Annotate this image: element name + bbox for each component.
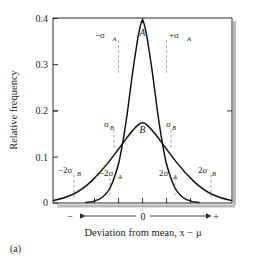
pos-2sigma-a-label: 2σ A: [159, 168, 177, 180]
svg-text:A: A: [186, 35, 191, 42]
pos-sigma-a-label: +σ A: [169, 30, 191, 42]
y-tick-label-0.2: 0.2: [36, 105, 49, 116]
svg-text:B: B: [110, 124, 114, 131]
frame-shadow-bottom: [57, 205, 235, 208]
svg-text:B: B: [77, 170, 81, 177]
curve-a-label: A: [139, 28, 146, 38]
svg-text:−σ: −σ: [95, 30, 105, 40]
svg-text:B: B: [172, 124, 176, 131]
svg-text:B: B: [212, 170, 216, 177]
svg-text:−2σ: −2σ: [58, 165, 73, 175]
svg-text:2σ: 2σ: [159, 168, 169, 178]
svg-text:A: A: [139, 28, 146, 38]
neg-2sigma-a-label: −2σ A: [99, 168, 122, 180]
svg-text:A: A: [117, 173, 122, 180]
svg-text:B: B: [140, 125, 146, 135]
svg-text:+σ: +σ: [169, 30, 179, 40]
figure-caption: (a): [10, 243, 21, 255]
svg-text:σ: σ: [166, 119, 171, 129]
right-sigma-b-label: σ B: [166, 119, 176, 131]
pos-2sigma-b-label: 2σ B: [198, 165, 216, 177]
normal-distribution-figure: 0.4 0.3 0.2 0.1 0 A B −σ A +σ A: [0, 0, 253, 258]
svg-text:A: A: [112, 35, 117, 42]
x-axis-title: Deviation from mean, x − μ: [84, 227, 201, 238]
frame-shadow-right: [233, 21, 236, 205]
curve-b-label: B: [140, 125, 146, 135]
svg-text:A: A: [172, 173, 177, 180]
neg-sigma-a-label: −σ A: [95, 30, 117, 42]
y-tick-label-0.4: 0.4: [36, 13, 49, 24]
y-tick-label-0.1: 0.1: [36, 152, 49, 163]
x-axis-minus-sign: −: [67, 211, 73, 222]
svg-text:2σ: 2σ: [198, 165, 208, 175]
x-axis-plus-sign: +: [213, 211, 219, 222]
y-tick-label-0.3: 0.3: [36, 59, 49, 70]
svg-text:σ: σ: [104, 119, 109, 129]
y-axis-title: Relative frequency: [8, 69, 19, 149]
x-axis-zero-label: 0: [141, 211, 146, 222]
svg-text:−2σ: −2σ: [99, 168, 114, 178]
y-tick-label-0: 0: [43, 197, 48, 208]
neg-2sigma-b-label: −2σ B: [58, 165, 81, 177]
left-sigma-b-label: σ B: [104, 119, 114, 131]
